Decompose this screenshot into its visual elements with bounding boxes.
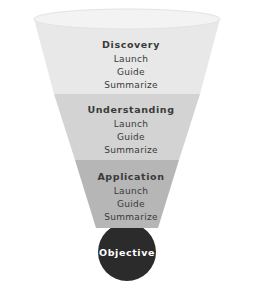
stage-step-discovery-1: Launch (114, 54, 148, 64)
stage-label-discovery: Discovery (102, 39, 160, 50)
stage-step-application-2: Guide (117, 199, 145, 209)
stage-step-discovery-2: Guide (117, 67, 145, 77)
stage-step-understanding-2: Guide (117, 132, 145, 142)
stage-step-application-1: Launch (114, 186, 148, 196)
stage-step-discovery-3: Summarize (104, 80, 158, 90)
stage-step-understanding-1: Launch (114, 119, 148, 129)
stage-step-understanding-3: Summarize (104, 145, 158, 155)
objective-label: Objective (99, 247, 155, 258)
stage-label-application: Application (97, 171, 164, 182)
funnel-graphic: Discovery Launch Guide Summarize Underst… (0, 0, 253, 290)
funnel-diagram: Discovery Launch Guide Summarize Underst… (0, 0, 253, 290)
funnel-rim-ellipse (34, 9, 220, 29)
stage-step-application-3: Summarize (104, 212, 158, 222)
stage-label-understanding: Understanding (87, 104, 174, 115)
